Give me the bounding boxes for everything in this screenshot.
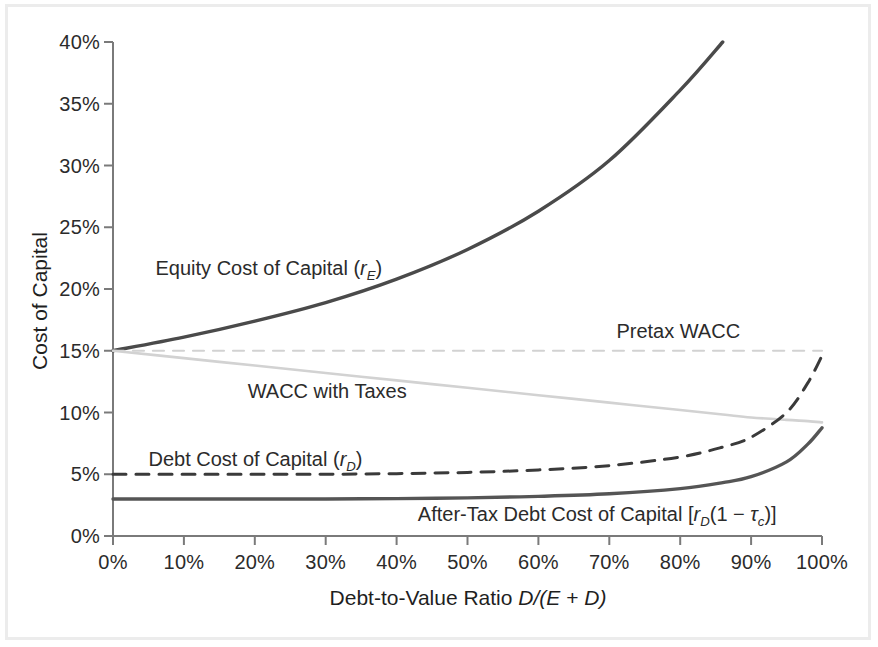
- annotation-aftertax-minus: −: [733, 503, 745, 525]
- annotation-equity-close: ): [376, 257, 383, 279]
- annotation-debt-text: Debt Cost of Capital (: [148, 448, 339, 470]
- y-axis-tick-label: 10%: [28, 401, 100, 424]
- annotation-aftertax-close: )]: [764, 503, 776, 525]
- annotation-aftertax-text: After-Tax Debt Cost of Capital [: [418, 503, 694, 525]
- x-axis-tick-label: 90%: [731, 551, 772, 574]
- x-axis-title-text: Debt-to-Value Ratio: [330, 586, 513, 609]
- x-axis-tick-label: 60%: [518, 551, 559, 574]
- annotation-aftertax-paren: (1: [710, 503, 733, 525]
- y-axis-title: Cost of Capital: [28, 201, 52, 401]
- annotation-wacc-with-taxes: WACC with Taxes: [248, 380, 407, 403]
- x-axis-tick-label: 30%: [305, 551, 346, 574]
- annotation-equity-cost-of-capital: Equity Cost of Capital (rE): [156, 257, 383, 283]
- y-axis-ticks: [104, 42, 113, 536]
- x-axis-tick-label: 100%: [796, 551, 848, 574]
- x-axis-title-var-e: E: [546, 586, 560, 609]
- annotation-equity-var: r: [360, 257, 367, 279]
- x-axis-tick-label: 40%: [376, 551, 417, 574]
- annotation-equity-text: Equity Cost of Capital (: [156, 257, 361, 279]
- chart-series-line-2: [113, 351, 822, 423]
- annotation-aftertax-subscript: D: [700, 514, 710, 529]
- x-axis-title-slash: /(: [533, 586, 546, 609]
- annotation-debt-cost-of-capital: Debt Cost of Capital (rD): [148, 448, 362, 474]
- annotation-after-tax-debt-cost-of-capital: After-Tax Debt Cost of Capital [rD(1 − τ…: [418, 503, 777, 529]
- x-axis-title-var-d2: D: [584, 586, 599, 609]
- annotation-debt-subscript: D: [346, 459, 356, 474]
- x-axis-tick-label: 20%: [234, 551, 275, 574]
- x-axis-tick-label: 80%: [660, 551, 701, 574]
- chart-series-line-0: [113, 42, 723, 351]
- annotation-debt-close: ): [356, 448, 363, 470]
- x-axis-title: Debt-to-Value Ratio D/(E + D): [113, 586, 823, 610]
- x-axis-tick-label: 10%: [164, 551, 205, 574]
- x-axis-tick-label: 50%: [447, 551, 488, 574]
- chart-plot-area: [0, 0, 878, 647]
- x-axis-title-var-d: D: [518, 586, 533, 609]
- figure-container: 0%5%10%15%20%25%30%35%40% 0%10%20%30%40%…: [0, 0, 878, 647]
- x-axis-title-plus: +: [560, 586, 584, 609]
- annotation-pretax-wacc: Pretax WACC: [616, 320, 740, 343]
- y-axis-tick-label: 0%: [28, 525, 100, 548]
- annotation-aftertax-tau: τ: [745, 503, 758, 525]
- y-axis-tick-label: 35%: [28, 92, 100, 115]
- y-axis-tick-label: 5%: [28, 463, 100, 486]
- x-axis-tick-label: 0%: [98, 551, 127, 574]
- x-axis-tick-label: 70%: [589, 551, 630, 574]
- x-axis-ticks: [113, 536, 822, 545]
- x-axis-title-close: ): [599, 586, 606, 609]
- annotation-equity-subscript: E: [367, 268, 376, 283]
- y-axis-tick-label: 40%: [28, 31, 100, 54]
- y-axis-tick-label: 30%: [28, 154, 100, 177]
